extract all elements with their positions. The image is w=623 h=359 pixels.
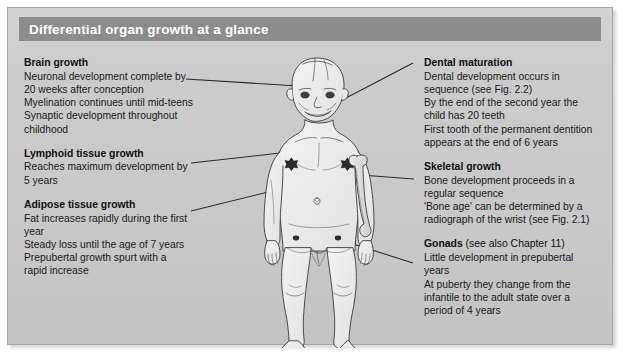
block-skeletal-growth: Skeletal growth Bone development proceed…: [424, 160, 623, 227]
left-text-column: Brain growth Neuronal development comple…: [24, 56, 224, 278]
block-line: Bone development proceeds in a: [424, 174, 623, 187]
block-line: regular sequence: [424, 187, 623, 200]
block-line: First tooth of the permanent dentition: [424, 123, 623, 136]
block-line: sequence (see Fig. 2.2): [424, 83, 623, 96]
block-lymphoid-tissue-growth: Lymphoid tissue growth Reaches maximum d…: [24, 147, 224, 187]
block-line: Reaches maximum development by: [24, 160, 224, 173]
block-line: Fat increases rapidly during the first: [24, 212, 224, 225]
block-line: childhood: [24, 123, 224, 136]
block-line: 20 weeks after conception: [24, 83, 224, 96]
block-line: At puberty they change from the: [424, 278, 623, 291]
card-title-bar: Differential organ growth at a glance: [19, 17, 601, 41]
block-title-skeletal-growth: Skeletal growth: [424, 160, 623, 173]
block-title-suffix: (see also Chapter 11): [463, 238, 565, 249]
block-line: 'Bone age' can be determined by a: [424, 200, 623, 213]
block-title-adipose-tissue-growth: Adipose tissue growth: [24, 198, 224, 211]
block-title-main: Gonads: [424, 238, 463, 249]
block-line: By the end of the second year the: [424, 96, 623, 109]
block-title-main: Skeletal growth: [424, 161, 501, 172]
screenshot-root: Differential organ growth at a glance: [0, 0, 623, 359]
block-line: Myelination continues until mid-teens: [24, 96, 224, 109]
block-line: radiograph of the wrist (see Fig. 2.1): [424, 213, 623, 226]
block-title-gonads: Gonads (see also Chapter 11): [424, 237, 623, 250]
block-line: years: [424, 264, 623, 277]
block-brain-growth: Brain growth Neuronal development comple…: [24, 56, 224, 136]
block-line: Prepubertal growth spurt with a: [24, 251, 224, 264]
block-line: Neuronal development complete by: [24, 70, 224, 83]
block-line: child has 20 teeth: [424, 109, 623, 122]
block-line: period of 4 years: [424, 304, 623, 317]
block-line: infantile to the adult state over a: [424, 291, 623, 304]
toddler-anatomy-illustration: [223, 48, 428, 348]
block-line: rapid increase: [24, 264, 224, 277]
block-line: Steady loss until the age of 7 years: [24, 238, 224, 251]
block-title-lymphoid-tissue-growth: Lymphoid tissue growth: [24, 147, 224, 160]
block-title-dental-maturation: Dental maturation: [424, 56, 623, 69]
block-line: Synaptic development throughout: [24, 109, 224, 122]
block-title-main: Dental maturation: [424, 57, 512, 68]
block-dental-maturation: Dental maturation Dental development occ…: [424, 56, 623, 149]
block-adipose-tissue-growth: Adipose tissue growth Fat increases rapi…: [24, 198, 224, 278]
block-line: year: [24, 225, 224, 238]
block-line: Little development in prepubertal: [424, 251, 623, 264]
right-text-column: Dental maturation Dental development occ…: [424, 56, 623, 317]
info-card: Differential organ growth at a glance: [7, 7, 613, 345]
block-line: 5 years: [24, 174, 224, 187]
block-line: appears at the end of 6 years: [424, 136, 623, 149]
card-title: Differential organ growth at a glance: [29, 22, 269, 37]
block-gonads: Gonads (see also Chapter 11) Little deve…: [424, 237, 623, 317]
block-line: Dental development occurs in: [424, 70, 623, 83]
block-title-brain-growth: Brain growth: [24, 56, 224, 69]
